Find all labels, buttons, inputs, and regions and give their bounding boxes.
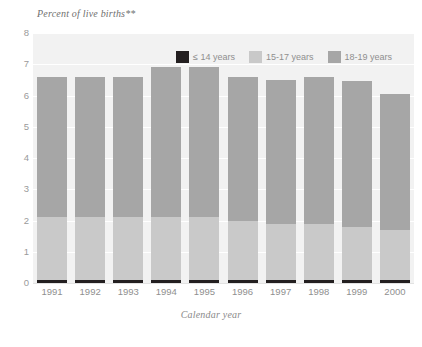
y-tick-label: 5: [3, 121, 29, 132]
bar-segment: [304, 77, 334, 224]
bar-segment: [75, 217, 105, 280]
bar-segment: [37, 77, 67, 218]
bar-segment: [37, 217, 67, 280]
bar-segment: [266, 224, 296, 280]
bar-1991: [37, 77, 67, 283]
x-tick-label: 1995: [185, 286, 223, 297]
x-axis-baseline: [33, 283, 414, 284]
legend-item: 18-19 years: [328, 51, 393, 63]
bar-segment: [342, 81, 372, 226]
y-tick-label: 1: [3, 246, 29, 257]
y-tick-label: 7: [3, 58, 29, 69]
bar-segment: [113, 77, 143, 218]
x-tick-label: 2000: [376, 286, 414, 297]
y-axis-title: Percent of live births**: [37, 8, 136, 19]
bar-segment: [228, 77, 258, 221]
bar-1994: [151, 67, 181, 283]
medium-gray-swatch: [328, 51, 341, 63]
bar-1995: [189, 67, 219, 283]
bars-group: [33, 33, 414, 283]
y-tick-label: 8: [3, 27, 29, 38]
bar-segment: [189, 217, 219, 280]
bar-segment: [380, 94, 410, 230]
bar-segment: [113, 217, 143, 280]
x-tick-label: 1994: [147, 286, 185, 297]
x-tick-label: 1993: [109, 286, 147, 297]
y-tick-label: 6: [3, 90, 29, 101]
bar-segment: [228, 221, 258, 280]
x-tick-label: 1991: [33, 286, 71, 297]
y-tick-label: 2: [3, 215, 29, 226]
x-axis-title: Calendar year: [0, 309, 422, 320]
bar-segment: [266, 80, 296, 224]
x-tick-label: 1997: [262, 286, 300, 297]
plot-area: [33, 33, 414, 283]
light-gray-swatch: [249, 51, 262, 63]
dark-swatch: [176, 51, 189, 63]
bar-1992: [75, 77, 105, 283]
bar-segment: [75, 77, 105, 218]
bar-1997: [266, 80, 296, 283]
bar-segment: [151, 217, 181, 280]
bar-segment: [304, 224, 334, 280]
y-tick-label: 3: [3, 183, 29, 194]
bar-segment: [380, 230, 410, 280]
bar-1993: [113, 77, 143, 283]
x-tick-label: 1996: [224, 286, 262, 297]
stacked-bar-chart: Percent of live births** 012345678 19911…: [0, 0, 422, 347]
bar-1999: [342, 81, 372, 283]
chart-legend: ≤ 14 years15-17 years18-19 years: [176, 50, 392, 63]
y-axis-tick-labels: 012345678: [0, 33, 29, 283]
bar-1998: [304, 77, 334, 283]
x-tick-label: 1998: [300, 286, 338, 297]
legend-item-label: ≤ 14 years: [193, 52, 235, 62]
legend-item: ≤ 14 years: [176, 51, 235, 63]
legend-item-label: 15-17 years: [266, 52, 314, 62]
bar-2000: [380, 94, 410, 283]
y-tick-label: 0: [3, 277, 29, 288]
bar-segment: [189, 67, 219, 217]
bar-segment: [151, 67, 181, 217]
x-tick-label: 1999: [338, 286, 376, 297]
x-axis-tick-labels: 1991199219931994199519961997199819992000: [33, 286, 414, 302]
bar-1996: [228, 77, 258, 283]
legend-item: 15-17 years: [249, 51, 314, 63]
bar-segment: [342, 227, 372, 280]
y-tick-label: 4: [3, 152, 29, 163]
x-tick-label: 1992: [71, 286, 109, 297]
legend-item-label: 18-19 years: [345, 52, 393, 62]
